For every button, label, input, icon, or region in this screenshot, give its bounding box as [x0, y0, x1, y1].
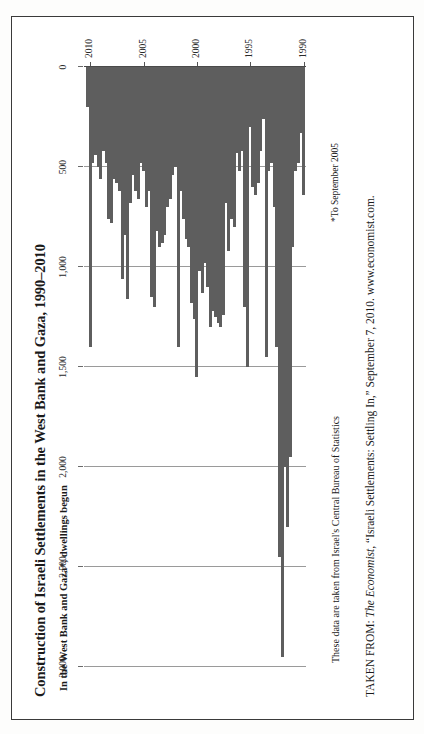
- bar: [123, 67, 126, 235]
- bar: [243, 67, 246, 307]
- bar: [99, 67, 102, 179]
- credit-publication: The Economist: [364, 549, 376, 618]
- bar: [254, 67, 257, 195]
- bar: [147, 67, 150, 191]
- y-tick-3000: [78, 666, 83, 667]
- y-tick-1500: [78, 366, 83, 367]
- bar: [211, 67, 214, 311]
- bar: [214, 67, 217, 317]
- bar: [294, 67, 297, 171]
- bar: [235, 67, 238, 153]
- bar: [158, 67, 161, 247]
- figure-page: Construction of Israeli Settlements in t…: [0, 0, 424, 734]
- bar: [187, 67, 190, 247]
- y-tick-label-3000: 3,000: [58, 656, 68, 677]
- bar: [222, 67, 225, 315]
- bar: [190, 67, 193, 303]
- bar: [198, 67, 201, 271]
- rotated-figure-content: Construction of Israeli Settlements in t…: [12, 17, 413, 719]
- bar: [195, 67, 198, 377]
- bar: [91, 67, 94, 163]
- bar: [203, 67, 206, 263]
- y-tick-500: [78, 166, 83, 167]
- bar: [270, 67, 273, 163]
- bar: [86, 67, 89, 107]
- bar: [166, 67, 169, 207]
- y-tick-0: [78, 66, 83, 67]
- bar: [113, 67, 116, 179]
- bar: [110, 67, 113, 223]
- bar: [134, 67, 137, 191]
- bar: [246, 67, 249, 367]
- bar: [265, 67, 268, 357]
- bar: [129, 67, 132, 203]
- chart-plot-area: 05001,0001,5002,0002,5003,000 1990199520…: [84, 67, 306, 667]
- bar: [273, 67, 276, 207]
- bar: [281, 67, 284, 657]
- chart-source-note: These data are taken from Israel's Centr…: [330, 416, 341, 663]
- bar: [177, 67, 180, 347]
- bar: [193, 67, 196, 319]
- bar: [142, 67, 145, 171]
- x-tick-2005: [144, 62, 145, 66]
- y-tick-label-2000: 2,000: [58, 456, 68, 477]
- bar: [89, 67, 92, 347]
- bar: [185, 67, 188, 239]
- y-tick-label-0: 0: [58, 65, 68, 70]
- bar: [267, 67, 270, 171]
- bar: [217, 67, 220, 323]
- y-tick-label-2500: 2,500: [58, 556, 68, 577]
- bar: [171, 67, 174, 175]
- bar: [121, 67, 124, 279]
- bar: [131, 67, 134, 175]
- bar: [206, 67, 209, 287]
- bar: [115, 67, 118, 183]
- y-tick-1000: [78, 266, 83, 267]
- figure-border: Construction of Israeli Settlements in t…: [11, 16, 414, 720]
- x-tick-1995: [250, 62, 251, 66]
- y-tick-2000: [78, 466, 83, 467]
- bar: [262, 67, 265, 119]
- bar: [227, 67, 230, 251]
- bar: [241, 67, 244, 151]
- x-tick-label-1990: 1990: [298, 39, 308, 58]
- credit-prefix: TAKEN FROM:: [364, 617, 376, 697]
- bar: [182, 67, 185, 219]
- x-tick-1990: [304, 62, 305, 66]
- bar: [94, 67, 97, 155]
- chart-footnote: *To September 2005: [330, 143, 340, 222]
- credit-rest: , “Israeli Settlements: Settling In,” Se…: [364, 195, 376, 548]
- bar: [102, 67, 105, 151]
- bar: [238, 67, 241, 171]
- bar: [118, 67, 121, 191]
- y-tick-label-500: 500: [58, 160, 68, 174]
- x-tick-label-2005: 2005: [138, 39, 148, 58]
- bar: [161, 67, 164, 243]
- bar: [97, 67, 100, 167]
- x-tick-2010: [90, 62, 91, 66]
- bar: [105, 67, 108, 163]
- bar: [289, 67, 292, 457]
- bar: [249, 67, 252, 127]
- bar: [163, 67, 166, 235]
- bar: [225, 67, 228, 203]
- bar: [201, 67, 204, 293]
- bar: [275, 67, 278, 347]
- bar: [283, 67, 286, 467]
- bar: [230, 67, 233, 219]
- x-tick-2000: [197, 62, 198, 66]
- bar: [278, 67, 281, 557]
- bar: [153, 67, 156, 307]
- bar: [299, 67, 302, 133]
- chart-credit-line: TAKEN FROM: The Economist, “Israeli Sett…: [364, 195, 376, 697]
- bar: [259, 67, 262, 151]
- bar: [155, 67, 158, 231]
- bar: [169, 67, 172, 199]
- bar: [139, 67, 142, 163]
- bar: [145, 67, 148, 207]
- bar: [126, 67, 129, 299]
- bar: [209, 67, 212, 327]
- bar: [286, 67, 289, 527]
- bar: [174, 67, 177, 167]
- page-title: Construction of Israeli Settlements in t…: [32, 244, 49, 697]
